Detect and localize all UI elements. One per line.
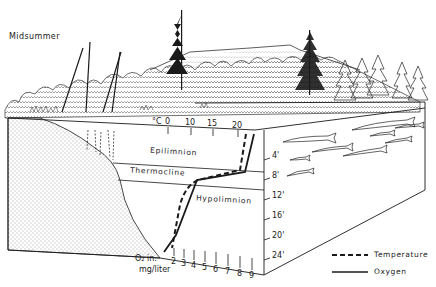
depth-tick-12: 12' xyxy=(272,192,284,200)
temperature-tick-20: 20 xyxy=(232,122,242,130)
oxygen-tick-3: 3 xyxy=(181,260,186,268)
lake-stratification-diagram: Midsummer °C 0 10 15 20 Epilimnion Therm… xyxy=(0,0,436,287)
shore-sediment xyxy=(8,118,160,258)
landscape xyxy=(5,10,428,118)
depth-tick-16: 16' xyxy=(272,212,284,220)
temperature-tick-15: 15 xyxy=(207,120,217,128)
oxygen-tick-9: 9 xyxy=(249,272,254,280)
temperature-unit-label: °C xyxy=(152,118,162,126)
depth-tick-20: 20' xyxy=(272,232,284,240)
oxygen-unit-label-line1: O₂ in. xyxy=(135,255,157,263)
depth-scale xyxy=(264,158,270,260)
oxygen-tick-6: 6 xyxy=(213,266,218,274)
diagram-title: Midsummer xyxy=(9,33,60,41)
oxygen-tick-8: 8 xyxy=(237,270,242,278)
oxygen-tick-4: 4 xyxy=(191,262,196,270)
diagram-drawing xyxy=(0,0,436,287)
depth-tick-24: 24' xyxy=(272,252,284,260)
temperature-tick-10: 10 xyxy=(185,119,195,127)
oxygen-unit-label-line2: mg/liter xyxy=(139,266,170,274)
legend-temperature-label: Temperature xyxy=(374,251,428,259)
depth-tick-4: 4' xyxy=(272,152,279,160)
temperature-tick-0: 0 xyxy=(165,118,170,126)
oxygen-tick-7: 7 xyxy=(225,268,230,276)
depth-tick-8: 8' xyxy=(272,172,279,180)
oxygen-tick-5: 5 xyxy=(202,264,207,272)
legend-oxygen-label: Oxygen xyxy=(374,268,407,276)
oxygen-tick-2: 2 xyxy=(171,258,176,266)
fish-group xyxy=(283,117,424,176)
